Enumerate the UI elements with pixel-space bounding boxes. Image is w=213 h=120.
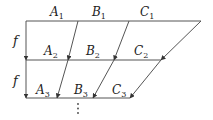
label-c3: C3 (112, 83, 126, 99)
label-a1: A1 (49, 5, 64, 21)
sequence-diagram: A1B1C1A2B2C2A3B3C3 ff (0, 0, 213, 120)
diag-c2-b3 (93, 60, 114, 98)
diag-b1-a2 (68, 21, 78, 60)
diag-c1-b2 (114, 21, 129, 60)
label-b1: B1 (91, 5, 106, 21)
map-label-f-2: f (12, 73, 20, 88)
ellipsis-dot-1 (77, 103, 79, 105)
label-c2: C2 (134, 44, 148, 60)
diag-end2-c3 (130, 60, 161, 98)
node-labels: A1B1C1A2B2C2A3B3C3 (35, 5, 154, 99)
label-a2: A2 (43, 44, 58, 60)
continuation-ellipsis (77, 103, 79, 114)
label-a3: A3 (35, 83, 50, 99)
map-label-f-1: f (12, 33, 20, 48)
label-b3: B3 (73, 83, 88, 99)
diag-b2-a3 (57, 60, 68, 98)
diag-end1-c2 (161, 21, 201, 60)
ellipsis-dot-2 (77, 108, 79, 110)
label-b2: B2 (85, 44, 100, 60)
map-labels: ff (12, 33, 20, 88)
ellipsis-dot-3 (77, 112, 79, 114)
label-c1: C1 (140, 5, 154, 21)
